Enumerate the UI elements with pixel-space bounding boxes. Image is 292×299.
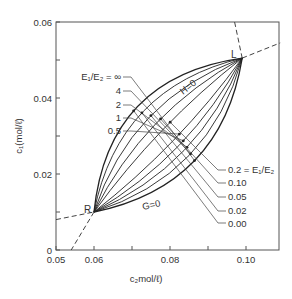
x-tick-label: 0.08 (161, 254, 180, 265)
x-tick-label: 0.06 (85, 254, 104, 265)
arrow-tip-icon (150, 114, 153, 117)
phase-diagram-chart: 0.050.060.080.1000.020.040.06 L R H=0 G=… (0, 0, 292, 299)
y-tick-label: 0.02 (34, 169, 53, 180)
label-e-0-10: 0.10 (228, 177, 247, 188)
dashed-through-L-right (242, 43, 280, 58)
y-axis-title: c₁(mol/ℓ) (13, 118, 24, 153)
axis-ticks: 0.050.060.080.1000.020.040.06 (34, 17, 256, 266)
y-tick-label: 0.04 (34, 93, 53, 104)
label-e-0-2: 0.2 = E₁/E₂ (228, 164, 275, 175)
h-zero-label: H=0 (177, 77, 198, 97)
arrow-tip-icon (132, 109, 135, 112)
point-label-L: L (231, 49, 237, 60)
dashed-through-R-down (71, 212, 94, 250)
arrow-tip-icon (159, 117, 162, 120)
right-curve-labels: 0.2 = E₁/E₂ 0.10 0.05 0.02 0.00 (228, 164, 275, 229)
arrow-tip-icon (193, 159, 196, 162)
y-tick-label: 0.06 (34, 17, 53, 28)
label-e-4: 4 (116, 85, 121, 96)
label-e-2: 2 (116, 99, 121, 110)
arrow-tip-icon (169, 121, 172, 124)
arrow-tip-icon (178, 133, 181, 136)
label-e-1: 1 (116, 112, 121, 123)
label-e-0-5: 0.5 (108, 125, 121, 136)
arrow-tip-icon (182, 139, 185, 142)
label-e-0-05: 0.05 (228, 191, 247, 202)
x-tick-label: 0.10 (237, 254, 256, 265)
arrow-tip-icon (141, 111, 144, 114)
leader-line (142, 113, 226, 211)
label-e-0-00: 0.00 (228, 218, 247, 229)
x-axis-title: c₂mol/ℓ) (130, 273, 163, 284)
label-e-0-02: 0.02 (228, 205, 247, 216)
g-zero-label: G=0 (141, 197, 161, 212)
label-e-inf: E₁/E₂ = ∞ (81, 71, 121, 82)
x-tick-label: 0.05 (47, 254, 66, 265)
y-tick-label: 0 (47, 245, 52, 256)
left-curve-labels: E₁/E₂ = ∞ 4 2 1 0.5 (81, 71, 121, 136)
point-label-R: R (84, 204, 91, 215)
